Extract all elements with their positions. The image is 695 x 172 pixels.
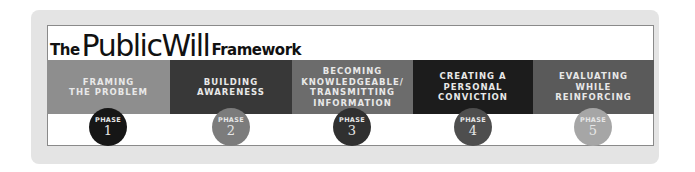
- phase-1-band: FRAMING THE PROBLEM: [47, 60, 170, 114]
- phase-number: 4: [469, 124, 477, 138]
- phase-3-band: BECOMING KNOWLEDGEABLE/ TRANSMITTING INF…: [292, 60, 413, 114]
- phase-3-badge: PHASE 3: [333, 108, 371, 146]
- phase-number: 5: [589, 124, 597, 138]
- title-publicwill: PublicWill: [82, 31, 210, 61]
- phase-5-badge: PHASE 5: [574, 108, 612, 146]
- phase-number: 3: [348, 124, 356, 138]
- phase-4-badge: PHASE 4: [454, 108, 492, 146]
- phase-4-band: CREATING A PERSONAL CONVICTION: [413, 60, 533, 114]
- phase-5-band: EVALUATING WHILE REINFORCING: [533, 60, 654, 114]
- phase-2-badge: PHASE 2: [212, 108, 250, 146]
- title-the: The: [50, 41, 80, 59]
- phase-2-band: BUILDING AWARENESS: [170, 60, 292, 114]
- phase-number: 2: [227, 124, 235, 138]
- phase-number: 1: [104, 124, 112, 138]
- diagram-title: The PublicWill Framework: [50, 27, 301, 61]
- title-framework: Framework: [211, 41, 301, 59]
- phase-1-badge: PHASE 1: [89, 108, 127, 146]
